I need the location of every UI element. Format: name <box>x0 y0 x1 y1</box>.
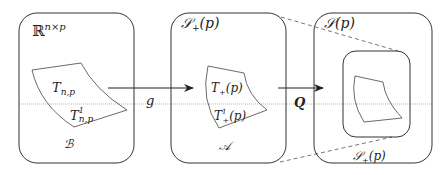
label-tplus: T+(p) <box>211 81 243 97</box>
label-g: g <box>146 93 154 108</box>
diagram-canvas: ℝn×p Tn,p T1n,p ℬ g 𝒮+(p) T+(p) T1+(p) 𝒜… <box>0 0 448 175</box>
label-b: ℬ <box>64 137 75 151</box>
label-splus: 𝒮+(p) <box>181 15 219 33</box>
label-rnp: ℝn×p <box>32 21 66 40</box>
label-q: Q <box>294 95 306 110</box>
label-tplus1: T1+(p) <box>214 108 247 125</box>
label-tnp: Tn,p <box>52 80 75 97</box>
label-tnp1: T1n,p <box>70 106 93 124</box>
label-s: 𝒮(p) <box>324 15 355 31</box>
inner-box-splus <box>343 51 410 137</box>
box-s <box>314 13 432 163</box>
region-inner <box>354 76 402 122</box>
label-a: 𝒜 <box>219 139 234 153</box>
label-inner-splus: 𝒮+(p) <box>353 149 386 165</box>
